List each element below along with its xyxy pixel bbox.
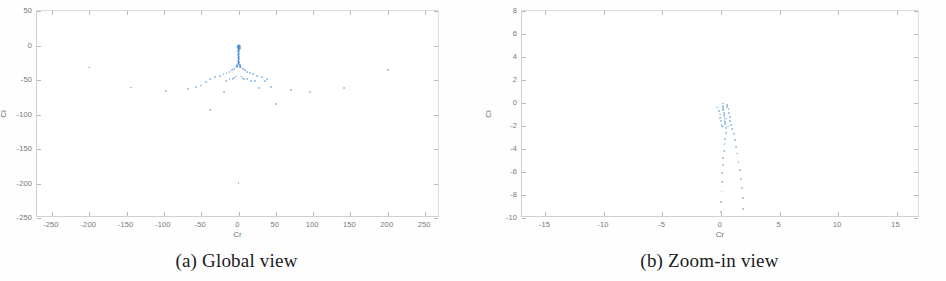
x-tick-label: -10 xyxy=(597,220,608,229)
scatter-point xyxy=(722,103,724,105)
scatter-point xyxy=(724,116,726,118)
x-tick-mark xyxy=(201,212,202,216)
scatter-point xyxy=(238,48,240,50)
x-tick-mark-top xyxy=(89,11,90,15)
y-tick-label: 6 xyxy=(491,29,517,38)
scatter-point xyxy=(252,74,254,76)
x-tick-label: -100 xyxy=(155,220,170,229)
x-tick-mark-top xyxy=(201,11,202,15)
y-axis-title-a: Ci xyxy=(0,110,8,118)
scatter-point xyxy=(237,45,240,48)
scatter-point xyxy=(237,46,240,49)
scatter-point xyxy=(728,112,730,114)
y-tick-mark xyxy=(522,126,526,127)
scatter-point xyxy=(249,72,251,74)
x-tick-mark-top xyxy=(604,11,605,15)
x-tick-mark xyxy=(425,212,426,216)
scatter-point xyxy=(209,78,211,80)
scatter-point xyxy=(241,67,243,69)
scatter-point xyxy=(235,76,237,78)
x-tick-mark xyxy=(388,212,389,216)
scatter-point xyxy=(722,105,724,107)
y-tick-mark-right xyxy=(434,115,438,116)
scatter-point xyxy=(238,51,240,53)
y-tick-label: -100 xyxy=(6,109,32,118)
scatter-point xyxy=(721,124,723,126)
scatter-point xyxy=(275,103,277,105)
x-tick-mark xyxy=(239,212,240,216)
scatter-point xyxy=(728,108,730,110)
y-tick-mark xyxy=(522,172,526,173)
scatter-point xyxy=(237,45,240,48)
scatter-point xyxy=(734,139,736,141)
scatter-point xyxy=(238,50,240,52)
scatter-point xyxy=(730,124,732,126)
scatter-point xyxy=(238,56,240,58)
scatter-point xyxy=(724,138,726,140)
scatter-point xyxy=(229,78,231,80)
y-tick-label: 50 xyxy=(6,6,32,15)
scatter-point xyxy=(238,50,240,52)
y-tick-label: -10 xyxy=(491,213,517,222)
x-tick-mark xyxy=(52,212,53,216)
y-tick-mark-right xyxy=(914,57,918,58)
x-tick-mark-top xyxy=(662,11,663,15)
scatter-point xyxy=(721,172,723,174)
scatter-point xyxy=(236,65,238,67)
scatter-point xyxy=(236,65,238,67)
x-tick-mark-top xyxy=(721,11,722,15)
scatter-point xyxy=(238,50,240,52)
scatter-points-a xyxy=(37,11,438,216)
y-tick-mark-right xyxy=(434,46,438,47)
x-tick-mark xyxy=(604,212,605,216)
scatter-point xyxy=(725,118,727,120)
scatter-point xyxy=(261,76,263,78)
y-tick-mark xyxy=(37,115,41,116)
scatter-point xyxy=(738,161,740,163)
scatter-point xyxy=(731,128,733,130)
scatter-point xyxy=(722,126,724,128)
y-tick-mark-right xyxy=(434,11,438,12)
scatter-point xyxy=(239,64,241,66)
panel-global-view: -250-200-150-100-50050100150200250500-50… xyxy=(0,0,473,281)
scatter-point xyxy=(721,126,723,128)
scatter-point xyxy=(739,169,741,171)
scatter-point xyxy=(238,51,240,53)
y-tick-mark-right xyxy=(914,218,918,219)
y-tick-mark-right xyxy=(914,34,918,35)
y-tick-mark-right xyxy=(434,218,438,219)
scatter-point xyxy=(237,49,239,51)
y-tick-label: -6 xyxy=(491,167,517,176)
scatter-point xyxy=(729,120,731,122)
y-tick-label: -2 xyxy=(491,121,517,130)
scatter-point xyxy=(238,64,240,66)
x-tick-mark xyxy=(276,212,277,216)
x-tick-mark-top xyxy=(313,11,314,15)
scatter-point xyxy=(238,61,240,63)
x-tick-mark-top xyxy=(425,11,426,15)
scatter-point xyxy=(187,88,189,90)
x-tick-mark xyxy=(89,212,90,216)
scatter-point xyxy=(721,191,723,193)
scatter-point xyxy=(238,57,240,59)
scatter-point xyxy=(720,120,722,122)
scatter-point xyxy=(238,58,240,60)
x-tick-mark xyxy=(662,212,663,216)
plot-area-a xyxy=(36,10,439,217)
y-tick-mark xyxy=(522,11,526,12)
x-tick-label: -50 xyxy=(195,220,206,229)
scatter-point xyxy=(264,80,266,82)
scatter-point xyxy=(725,127,727,129)
x-tick-mark xyxy=(780,212,781,216)
scatter-point xyxy=(258,87,260,89)
x-tick-label: 10 xyxy=(833,220,842,229)
scatter-point xyxy=(244,69,246,71)
scatter-point xyxy=(238,48,240,50)
y-tick-label: -250 xyxy=(6,213,32,222)
y-tick-mark-right xyxy=(434,149,438,150)
y-tick-mark xyxy=(37,149,41,150)
scatter-point xyxy=(729,116,731,118)
x-tick-mark-top xyxy=(239,11,240,15)
scatter-point xyxy=(735,146,737,148)
scatter-point xyxy=(727,126,729,128)
